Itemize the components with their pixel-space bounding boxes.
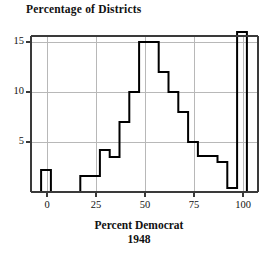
gridlines <box>31 36 258 192</box>
x-tick-label: 75 <box>179 199 209 210</box>
x-tick-label: 100 <box>228 199 258 210</box>
y-tick-label: 15 <box>2 35 24 46</box>
x-axis-label: Percent Democrat <box>0 219 278 231</box>
histogram-chart: Percentage of Districts 51015 0255075100… <box>0 0 278 257</box>
y-tick-label: 10 <box>2 85 24 96</box>
x-tick-label: 0 <box>32 199 62 210</box>
x-axis-year-label: 1948 <box>0 233 278 245</box>
y-tick-label: 5 <box>2 135 24 146</box>
tick-marks <box>26 42 243 197</box>
x-tick-label: 25 <box>81 199 111 210</box>
histogram-outline <box>41 32 247 192</box>
x-tick-label: 50 <box>130 199 160 210</box>
